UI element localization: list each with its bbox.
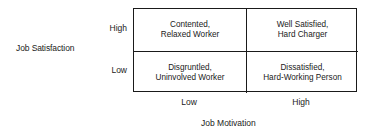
cell-line: Hard-Working Person — [263, 73, 342, 83]
cell-line: Disgruntled, — [155, 63, 224, 73]
cell-line: Uninvolved Worker — [155, 73, 224, 83]
cell-line: Contented, — [161, 20, 220, 30]
cell-disgruntled-uninvolved-worker: Disgruntled, Uninvolved Worker — [134, 51, 246, 93]
cell-well-satisfied-hard-charger: Well Satisfied, Hard Charger — [246, 9, 358, 51]
y-tick-low: Low — [97, 65, 127, 75]
x-axis-label: Job Motivation — [201, 118, 256, 128]
y-axis-label: Job Satisfaction — [16, 43, 74, 53]
cell-dissatisfied-hard-working-person: Dissatisfied, Hard-Working Person — [246, 51, 358, 93]
cell-line: Dissatisfied, — [263, 63, 342, 73]
cell-line: Relaxed Worker — [161, 30, 220, 40]
x-tick-high: High — [281, 97, 321, 107]
cell-line: Well Satisfied, — [277, 20, 329, 30]
cell-line: Hard Charger — [277, 30, 329, 40]
cell-contented-relaxed-worker: Contented, Relaxed Worker — [134, 9, 246, 51]
y-tick-high: High — [97, 23, 127, 33]
matrix-grid: Contented, Relaxed Worker Well Satisfied… — [133, 8, 357, 92]
x-tick-low: Low — [169, 97, 209, 107]
